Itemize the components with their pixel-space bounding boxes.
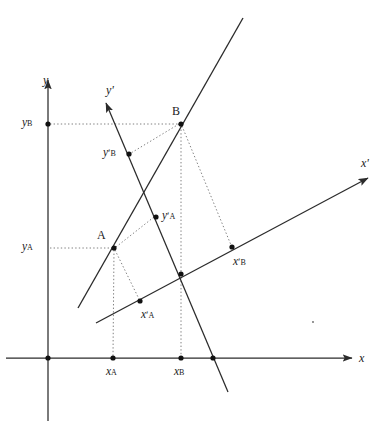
axes-group [6,80,368,421]
x-prime-B-tick-label: xʹB [233,256,246,268]
x-B-tick-label: xB [174,366,184,378]
proj-A-to-xprimeA [115,250,139,299]
x-A-tick-dot [110,355,115,360]
x-prime-axis-label: xʹ [361,157,369,169]
point-A-dot [111,245,116,250]
origin-dot [45,355,50,360]
y-prime-B-tick-label: yʹB [103,147,116,159]
y-prime-axis-label: yʹ [106,84,114,96]
x-prime-B-tick-dot [229,244,234,249]
y-A-tick-label: yA [22,241,33,253]
y-prime-A-tick-label: yʹA [162,210,175,222]
y-prime-A-tick-dot [153,214,158,219]
point-B-dot [178,121,183,126]
diagram-canvas [0,0,386,421]
x-B-tick-dot [178,355,183,360]
x-prime-axis [96,178,368,323]
points-group [45,121,314,360]
line-through-A-B [78,18,243,308]
lines-group [78,18,243,308]
x-axis-crossing-dot [210,355,215,360]
point-B-label: B [172,105,180,117]
prime-origin-dot [178,271,183,276]
stray-mark [312,321,314,323]
y-prime-B-tick-dot [126,151,131,156]
y-B-tick-dot [45,121,50,126]
point-A-label: A [97,229,106,241]
geometry-diagram: xyxʹyʹAByByAxAxByʹByʹAxʹAxʹB [0,0,386,421]
proj-A-to-xA [113,250,114,356]
x-axis-label: x [359,352,364,364]
x-prime-A-tick-label: xʹA [141,309,154,321]
projection-lines-group [50,124,231,356]
proj-B-to-yprimeB [131,124,179,153]
y-prime-axis [106,103,228,392]
y-B-tick-label: yB [22,117,32,129]
proj-B-to-xprimeB [182,126,231,245]
x-prime-A-tick-dot [137,298,142,303]
x-A-tick-label: xA [106,366,117,378]
y-axis-label: y [43,74,48,86]
